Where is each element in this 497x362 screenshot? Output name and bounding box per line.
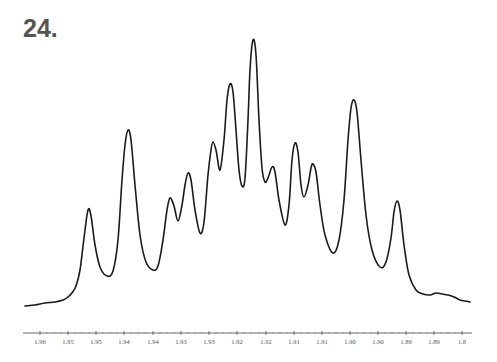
x-axis-tick-label: 1.91 (316, 338, 327, 345)
x-axis-tick-label: 1.90 (372, 338, 383, 345)
x-axis-tick-label: 1.89 (428, 338, 439, 345)
x-axis-tick-label: 1.96 (34, 338, 46, 345)
x-axis-tick-label: 1.92 (231, 338, 242, 345)
x-axis-tick-label: 1.94 (118, 338, 130, 345)
x-axis-tick-label: 1.94 (147, 338, 159, 345)
x-axis-tick-label: 1.90 (344, 338, 355, 345)
x-axis-tick-label: 1.95 (62, 338, 73, 345)
x-axis-tick-labels: 1.961.951.951.941.941.931.931.921.921.91… (34, 338, 466, 345)
x-axis-tick-label: 1.91 (288, 338, 299, 345)
nmr-spectrum-plot: 1.961.951.951.941.941.931.931.921.921.91… (0, 0, 497, 362)
spectrum-trace (25, 39, 470, 306)
x-axis-tick-label: 1.93 (175, 338, 186, 345)
x-axis-tick-label: 1.8 (458, 338, 466, 345)
x-axis-tick-label: 1.93 (203, 338, 214, 345)
x-axis-tick-label: 1.89 (400, 338, 411, 345)
x-axis-tick-label: 1.95 (90, 338, 101, 345)
x-axis-tick-label: 1.92 (260, 338, 271, 345)
x-axis: 1.961.951.951.941.941.931.931.921.921.91… (23, 331, 472, 345)
